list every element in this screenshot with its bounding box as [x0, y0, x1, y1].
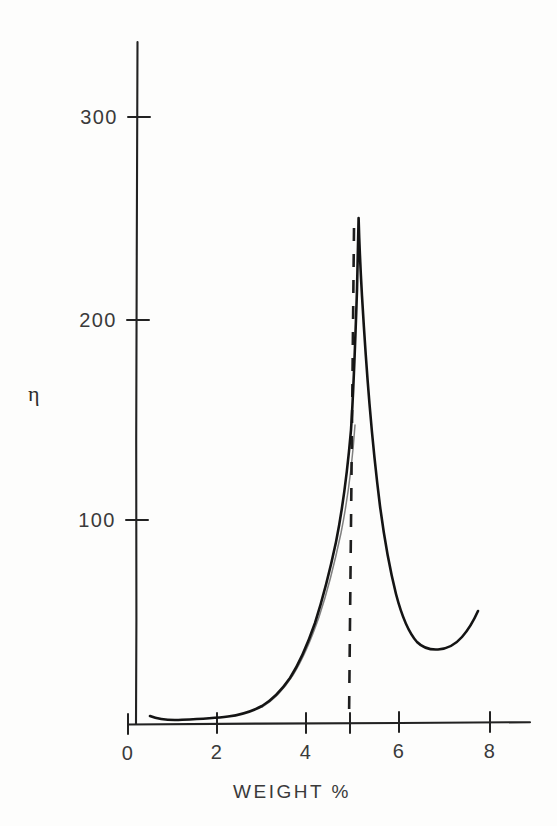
y-axis-title: η: [28, 381, 40, 407]
y-axis-line: [136, 42, 138, 724]
y-tick-label-200: 200: [65, 309, 117, 332]
x-tick-label-0: 0: [122, 742, 135, 765]
y-tick-label-100: 100: [64, 509, 116, 532]
x-axis-title: WEIGHT %: [233, 781, 351, 803]
x-tick-label-8: 8: [484, 740, 497, 763]
x-tick-label-2: 2: [211, 741, 224, 764]
y-tick-label-300: 300: [66, 106, 118, 129]
x-tick-label-4: 4: [300, 741, 313, 764]
chart-figure: η 300 200 100 0 2 4 6 8 WEIGHT %: [0, 0, 557, 826]
viscosity-curve: [150, 218, 478, 720]
viscosity-curve-shoulder-overstroke: [262, 425, 355, 707]
x-tick-label-6: 6: [393, 740, 406, 763]
x-axis-line: [128, 722, 530, 724]
